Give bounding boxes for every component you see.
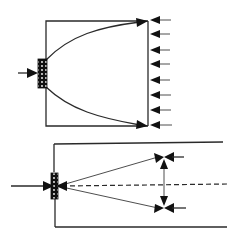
- boundary-arrowhead-icon: [150, 30, 160, 38]
- lower-curved-ray: [46, 87, 140, 125]
- upper-curved-ray: [46, 22, 140, 60]
- top-source-block: [38, 59, 47, 88]
- bottom-panel: [11, 142, 228, 227]
- boundary-arrowhead-icon: [150, 60, 160, 68]
- boundary-arrowhead-icon: [150, 121, 160, 129]
- separation-down-arrowhead-icon: [160, 196, 168, 206]
- diagram-canvas: [0, 0, 240, 240]
- upper-converging-ray: [62, 157, 158, 185]
- upper-target-left-arrowhead-icon: [154, 153, 164, 163]
- boundary-arrowhead-icon: [150, 91, 160, 99]
- separation-up-arrowhead-icon: [160, 159, 168, 169]
- optical-axis-dashed: [62, 184, 228, 186]
- top-input-arrowhead-icon: [27, 68, 38, 78]
- lower-converging-ray: [62, 187, 158, 208]
- boundary-arrowhead-icon: [150, 76, 160, 84]
- top-panel: [18, 16, 172, 129]
- boundary-arrowhead-icon: [150, 106, 160, 114]
- boundary-arrowhead-icon: [150, 46, 160, 54]
- lower-target-left-arrowhead-icon: [154, 204, 164, 213]
- bottom-top-wall: [54, 142, 223, 144]
- top-box-outline: [46, 21, 148, 126]
- lower-ray-arrowhead-icon: [136, 120, 148, 129]
- boundary-arrows: [150, 16, 172, 129]
- boundary-arrowhead-icon: [150, 16, 160, 24]
- upper-ray-arrowhead-icon: [136, 18, 148, 27]
